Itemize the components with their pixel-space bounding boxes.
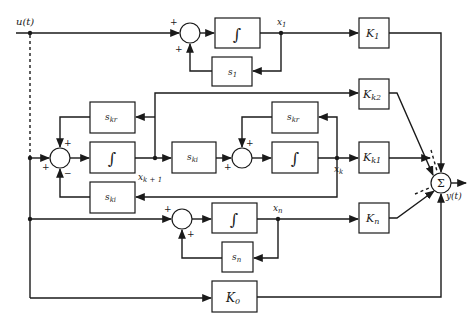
integral-icon: ∫ <box>230 210 238 229</box>
integral-icon: ∫ <box>291 149 299 168</box>
sign-plus: + <box>170 17 178 27</box>
summing-junction-1 <box>180 23 200 43</box>
sign-plus: + <box>164 204 172 214</box>
wire <box>389 191 434 218</box>
sign-plus: + <box>246 138 254 148</box>
sign-plus: + <box>42 162 50 172</box>
wire <box>190 44 212 71</box>
sigma-icon: Σ <box>437 177 445 190</box>
sign-minus: − <box>64 168 72 178</box>
sign-plus: + <box>224 162 232 172</box>
wire <box>257 194 441 297</box>
state-label-xk1: xk + 1 <box>138 172 162 184</box>
state-label-x1: x1 <box>277 17 287 29</box>
output-label: y(t) <box>445 191 462 201</box>
input-label: u(t) <box>16 16 34 27</box>
summing-junction-n <box>172 209 192 229</box>
input-junction <box>28 31 32 35</box>
state-label-xn: xn <box>273 203 283 215</box>
block-diagram: u(t) + + ∫ x1 s1 K1 + + − skr <box>0 0 473 327</box>
integral-icon: ∫ <box>108 149 116 168</box>
wire <box>319 117 337 158</box>
branch-complex: + + − skr ∫ xk + 1 ski + + skr ∫ xk ski <box>30 79 433 213</box>
sign-plus: + <box>64 138 72 148</box>
sign-plus: + <box>187 229 195 239</box>
wire <box>254 219 278 258</box>
wire <box>389 33 441 172</box>
summing-junction-k <box>232 148 252 168</box>
state-label-xk: xk <box>334 164 343 176</box>
sign-plus: + <box>175 44 183 54</box>
summing-junction-k1 <box>50 148 70 168</box>
ellipsis-input-dashed <box>431 150 437 171</box>
integral-icon: ∫ <box>233 25 241 44</box>
wire <box>389 93 433 175</box>
ellipsis-input-dashed <box>415 188 429 194</box>
